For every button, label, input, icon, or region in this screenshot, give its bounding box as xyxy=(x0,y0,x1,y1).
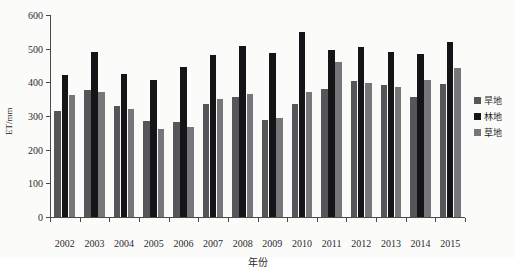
y-tick-mark xyxy=(46,15,50,16)
bar xyxy=(447,42,454,217)
x-tick-mark xyxy=(317,218,318,222)
y-tick-label: 300 xyxy=(28,111,43,122)
y-tick-mark xyxy=(46,82,50,83)
legend-item[interactable]: 林地 xyxy=(474,108,515,124)
y-tick-mark xyxy=(46,116,50,117)
bar xyxy=(247,94,254,217)
bar xyxy=(143,121,150,217)
bar xyxy=(269,53,276,217)
bar xyxy=(424,80,431,217)
x-tick-mark xyxy=(435,218,436,222)
bar xyxy=(173,122,180,217)
bar xyxy=(299,32,306,218)
bar xyxy=(150,80,157,217)
legend-label: 旱地 xyxy=(484,94,502,107)
y-tick-mark xyxy=(46,150,50,151)
legend-label: 林地 xyxy=(484,110,502,123)
x-tick-mark xyxy=(169,218,170,222)
legend-item[interactable]: 草地 xyxy=(474,124,515,140)
bar xyxy=(321,89,328,217)
bar xyxy=(358,47,365,217)
x-tick-mark xyxy=(80,218,81,222)
x-tick-label: 2004 xyxy=(114,238,134,249)
x-tick-mark xyxy=(465,218,466,222)
legend-swatch-icon xyxy=(474,129,481,136)
x-tick-label: 2013 xyxy=(381,238,401,249)
x-tick-mark xyxy=(346,218,347,222)
x-tick-label: 2009 xyxy=(262,238,282,249)
x-tick-mark xyxy=(109,218,110,222)
bar xyxy=(217,99,224,217)
bar-group xyxy=(114,15,135,217)
bar xyxy=(381,85,388,217)
legend-item[interactable]: 旱地 xyxy=(474,92,515,108)
legend-label: 草地 xyxy=(484,126,502,139)
bar-group xyxy=(381,15,402,217)
bar xyxy=(365,83,372,217)
x-tick-label: 2014 xyxy=(411,238,431,249)
bar xyxy=(262,120,269,217)
bar xyxy=(410,97,417,217)
chart-legend: 旱地林地草地 xyxy=(474,92,515,140)
plot-area: 0100200300400500600 20022003200420052006… xyxy=(50,15,465,218)
y-axis-title: ET/mm xyxy=(2,86,16,156)
x-tick-label: 2011 xyxy=(322,238,342,249)
x-tick-label: 2003 xyxy=(84,238,104,249)
x-tick-mark xyxy=(198,218,199,222)
y-tick-label: 500 xyxy=(28,43,43,54)
bar xyxy=(454,68,461,217)
bar xyxy=(388,52,395,217)
bar xyxy=(54,111,61,217)
bar xyxy=(239,46,246,217)
bar xyxy=(158,129,165,217)
legend-swatch-icon xyxy=(474,113,481,120)
y-tick-label: 400 xyxy=(28,77,43,88)
bar-group xyxy=(262,15,283,217)
bar xyxy=(232,97,239,217)
bar xyxy=(84,90,91,217)
x-tick-mark xyxy=(376,218,377,222)
bar xyxy=(203,104,210,217)
x-tick-label: 2010 xyxy=(292,238,312,249)
x-tick-mark xyxy=(139,218,140,222)
bar-group xyxy=(410,15,431,217)
bar-group xyxy=(54,15,75,217)
bar-group xyxy=(232,15,253,217)
bar xyxy=(440,84,447,217)
bar-group xyxy=(173,15,194,217)
bar xyxy=(210,55,217,217)
x-axis-title: 年份 xyxy=(50,254,465,269)
bar xyxy=(417,54,424,217)
y-tick-label: 0 xyxy=(38,212,43,223)
bar-group xyxy=(351,15,372,217)
bar xyxy=(98,92,105,217)
legend-swatch-icon xyxy=(474,97,481,104)
bar xyxy=(335,62,342,217)
bar xyxy=(121,74,128,217)
bar xyxy=(351,81,358,217)
bar xyxy=(395,87,402,217)
bar xyxy=(276,118,283,217)
x-tick-label: 2015 xyxy=(440,238,460,249)
y-tick-label: 600 xyxy=(28,10,43,21)
x-tick-label: 2002 xyxy=(55,238,75,249)
y-tick-mark xyxy=(46,183,50,184)
bar-group xyxy=(84,15,105,217)
bar-group xyxy=(203,15,224,217)
bar xyxy=(292,104,299,217)
bar xyxy=(180,67,187,217)
bar xyxy=(128,109,135,217)
x-tick-mark xyxy=(228,218,229,222)
bar xyxy=(69,95,76,217)
bar xyxy=(62,75,69,217)
bar-group xyxy=(321,15,342,217)
x-tick-label: 2008 xyxy=(233,238,253,249)
x-tick-label: 2012 xyxy=(351,238,371,249)
x-tick-mark xyxy=(406,218,407,222)
bar xyxy=(187,127,194,217)
y-tick-mark xyxy=(46,49,50,50)
x-tick-label: 2007 xyxy=(203,238,223,249)
bar-group xyxy=(143,15,164,217)
x-tick-label: 2005 xyxy=(144,238,164,249)
